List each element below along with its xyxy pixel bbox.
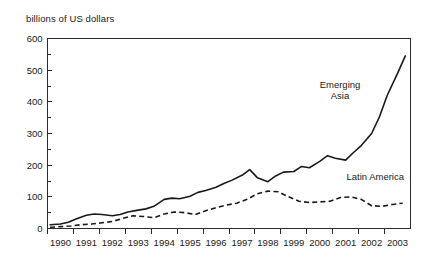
x-tick-label: 1993 xyxy=(128,237,149,248)
y-axis-tick-labels: 0100200300400500600 xyxy=(27,33,43,234)
series-annotations: Emerging Asia Latin America xyxy=(320,79,405,182)
x-tick-label: 2003 xyxy=(387,237,408,248)
x-tick-label: 1994 xyxy=(154,237,175,248)
x-tick-label: 1997 xyxy=(231,237,252,248)
x-tick-label: 2001 xyxy=(335,237,356,248)
y-tick-label: 0 xyxy=(37,223,42,234)
y-tick-label: 400 xyxy=(27,96,43,107)
annotation-emerging-asia-line1: Emerging xyxy=(320,79,361,90)
x-tick-label: 1990 xyxy=(50,237,71,248)
line-chart-plot: 0100200300400500600 19901991199219931994… xyxy=(0,0,423,262)
x-tick-label: 1995 xyxy=(180,237,201,248)
x-axis-tick-labels: 1990199119921993199419951996199719981999… xyxy=(50,237,408,248)
plot-frame xyxy=(48,39,411,229)
x-tick-label: 2002 xyxy=(361,237,382,248)
x-tick-label: 1996 xyxy=(205,237,226,248)
y-tick-label: 600 xyxy=(27,33,43,44)
x-axis-tick-marks xyxy=(48,229,385,234)
y-tick-label: 300 xyxy=(27,128,43,139)
x-tick-label: 1999 xyxy=(283,237,304,248)
y-axis-tick-marks xyxy=(48,39,52,229)
y-tick-label: 200 xyxy=(27,160,43,171)
x-tick-label: 1991 xyxy=(76,237,97,248)
x-tick-label: 1998 xyxy=(257,237,278,248)
chart-container: billions of US dollars 01002003004005006… xyxy=(0,0,423,262)
y-tick-label: 100 xyxy=(27,191,43,202)
annotation-latin-america: Latin America xyxy=(346,171,404,182)
series-line-latin-america xyxy=(50,191,403,227)
annotation-emerging-asia-line2: Asia xyxy=(331,90,350,101)
x-tick-label: 2000 xyxy=(309,237,330,248)
y-tick-label: 500 xyxy=(27,65,43,76)
x-tick-label: 1992 xyxy=(102,237,123,248)
